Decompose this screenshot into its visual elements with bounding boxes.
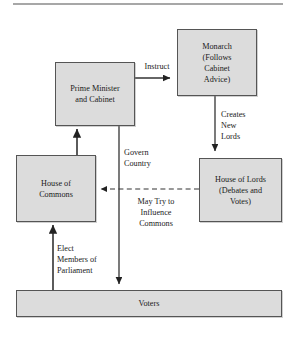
node-label-line: (Follows xyxy=(202,52,231,63)
node-label-line: Monarch xyxy=(202,41,232,52)
edge-label-line: Parliament xyxy=(57,265,117,276)
node-label-line: Votes) xyxy=(230,196,251,207)
node-label-line: House of xyxy=(41,178,71,189)
edge-label-instruct: Instruct xyxy=(136,61,178,72)
edge-label-line: Elect xyxy=(57,243,117,254)
node-prime-minister-and-cabinet[interactable]: Prime Minister and Cabinet xyxy=(55,62,135,126)
node-label-line: (Debates and xyxy=(219,185,262,196)
edge-label-line: Commons xyxy=(122,218,190,229)
flow-diagram: Prime Minister and Cabinet Monarch (Foll… xyxy=(0,0,299,338)
node-label-line: Prime Minister xyxy=(70,83,119,94)
edge-label-govern-country: Govern Country xyxy=(124,147,172,169)
node-house-of-lords[interactable]: House of Lords (Debates and Votes) xyxy=(199,158,282,222)
node-monarch[interactable]: Monarch (Follows Cabinet Advice) xyxy=(177,29,257,96)
edge-label-line: Country xyxy=(124,158,172,169)
edge-label-creates-new-lords: Creates New Lords xyxy=(221,109,265,142)
node-label-line: Voters xyxy=(139,298,160,309)
node-voters[interactable]: Voters xyxy=(16,290,282,317)
edge-label-line: New xyxy=(221,120,265,131)
node-label-line: Advice) xyxy=(204,74,230,85)
edge-label-may-try-to-influence-commons: May Try to Influence Commons xyxy=(122,196,190,229)
edge-label-line: Influence xyxy=(122,207,190,218)
edge-label-elect-members-of-parliament: Elect Members of Parliament xyxy=(57,243,117,276)
edge-label-line: May Try to xyxy=(122,196,190,207)
node-label-line: House of Lords xyxy=(215,174,266,185)
edge-label-line: Govern xyxy=(124,147,172,158)
node-label-line: Commons xyxy=(39,189,73,200)
node-house-of-commons[interactable]: House of Commons xyxy=(16,155,96,222)
edge-label-line: Lords xyxy=(221,131,265,142)
node-label-line: Cabinet xyxy=(204,63,229,74)
edge-label-line: Instruct xyxy=(136,61,178,72)
node-label-line: and Cabinet xyxy=(75,94,114,105)
edge-label-line: Members of xyxy=(57,254,117,265)
edge-label-line: Creates xyxy=(221,109,265,120)
